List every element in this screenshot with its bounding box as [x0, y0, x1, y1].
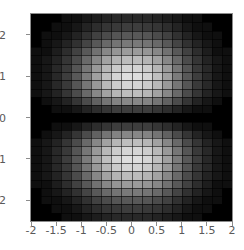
x-tick-label: 1.5 — [198, 225, 216, 236]
y-tick-label: 2 — [0, 29, 6, 40]
x-tick-label: 0 — [128, 225, 135, 236]
y-tick-mark — [26, 117, 30, 118]
x-tick-label: -1.5 — [45, 225, 66, 236]
x-tick-label: 2 — [229, 225, 236, 236]
y-tick-mark — [26, 76, 30, 77]
y-tick-label: -1 — [0, 153, 6, 164]
density-plot-figure: -2-1.5-1-0.500.511.52 210-1-2 — [0, 0, 244, 250]
x-tick-label: -1 — [76, 225, 87, 236]
y-tick-label: 1 — [0, 71, 6, 82]
x-tick-label: 1 — [178, 225, 185, 236]
x-tick-label: -2 — [26, 225, 37, 236]
y-tick-mark — [26, 200, 30, 201]
x-tick-label: -0.5 — [96, 225, 117, 236]
heatmap-canvas — [31, 14, 232, 221]
y-tick-mark — [26, 158, 30, 159]
y-tick-mark — [26, 34, 30, 35]
plot-area — [30, 13, 233, 222]
x-tick-label: 0.5 — [148, 225, 166, 236]
y-tick-label: 0 — [0, 112, 6, 123]
y-tick-label: -2 — [0, 195, 6, 206]
